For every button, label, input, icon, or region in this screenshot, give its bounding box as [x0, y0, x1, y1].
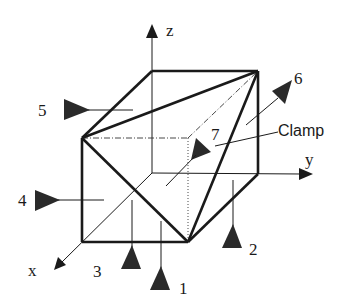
- locator-7-label: 7: [211, 125, 220, 144]
- locator-6-label: 6: [294, 69, 303, 88]
- locator-1-label: 1: [179, 279, 188, 298]
- locator-3-arrow-icon: [121, 245, 141, 269]
- x-axis-label: x: [28, 261, 37, 280]
- clamp-leader-line: [215, 132, 278, 146]
- locator-5-label: 5: [38, 101, 47, 120]
- z-axis-label: z: [166, 21, 174, 40]
- clamp-label: Clamp: [278, 122, 324, 139]
- hidden-edge-diagonal: [188, 71, 258, 138]
- locator-4-label: 4: [18, 191, 27, 210]
- locator-1-arrow-icon: [150, 266, 170, 290]
- locator-3: [121, 200, 141, 269]
- locator-4: [35, 190, 104, 211]
- labels: z y x 5 4 3 1 2 6 7 Clamp: [18, 21, 324, 298]
- y-axis-arrowhead-icon: [299, 168, 313, 180]
- z-axis-arrowhead-icon: [146, 24, 158, 38]
- cube-fixture-diagram: z y x 5 4 3 1 2 6 7 Clamp: [0, 0, 345, 306]
- x-axis-arrowhead-icon: [54, 257, 66, 270]
- y-axis-label: y: [305, 150, 314, 169]
- locator-2-arrow-icon: [222, 224, 242, 248]
- locator-5-arrow-icon: [64, 99, 90, 120]
- locator-1: [150, 221, 170, 290]
- locator-4-arrow-icon: [35, 190, 60, 211]
- locator-2-label: 2: [249, 240, 258, 259]
- x-axis: [62, 173, 152, 262]
- locator-7: [166, 138, 211, 186]
- locator-5: [64, 99, 133, 120]
- y-axis: [152, 173, 302, 174]
- locator-3-label: 3: [93, 262, 102, 281]
- locator-2: [222, 180, 242, 248]
